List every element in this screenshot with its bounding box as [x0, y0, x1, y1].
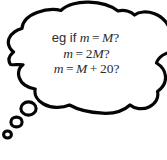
line-1-roman-prefix: eg if [52, 30, 77, 45]
tail-bubble-large [21, 102, 36, 115]
tail-bubble-medium [11, 117, 22, 127]
line-3-equals: = [63, 61, 76, 76]
line-2-question-mark: ? [104, 46, 110, 61]
thought-bubble-figure: eg if m=M? m=2M? m=M+20? [0, 0, 167, 160]
line-2-var-m: m [63, 46, 73, 61]
thought-line-3: m=M+20? [0, 61, 167, 77]
line-1-var-M: M [102, 30, 113, 45]
line-1-equals: = [89, 30, 102, 45]
line-3-var-m: m [54, 61, 64, 76]
line-3-question-mark: ? [113, 61, 119, 76]
thought-bubble-graphic [0, 0, 167, 160]
line-3-number: 20 [100, 61, 114, 76]
line-1-question-mark: ? [113, 30, 119, 45]
thought-line-1: eg if m=M? [0, 30, 167, 46]
line-2-var-M: M [92, 46, 103, 61]
tail-bubble-small [4, 131, 12, 138]
line-1-var-m: m [80, 30, 90, 45]
line-3-plus: + [87, 61, 100, 76]
thought-line-2: m=2M? [0, 46, 167, 62]
line-2-equals: = [73, 46, 86, 61]
line-3-var-M: M [76, 61, 87, 76]
thought-bubble-text: eg if m=M? m=2M? m=M+20? [0, 30, 167, 77]
